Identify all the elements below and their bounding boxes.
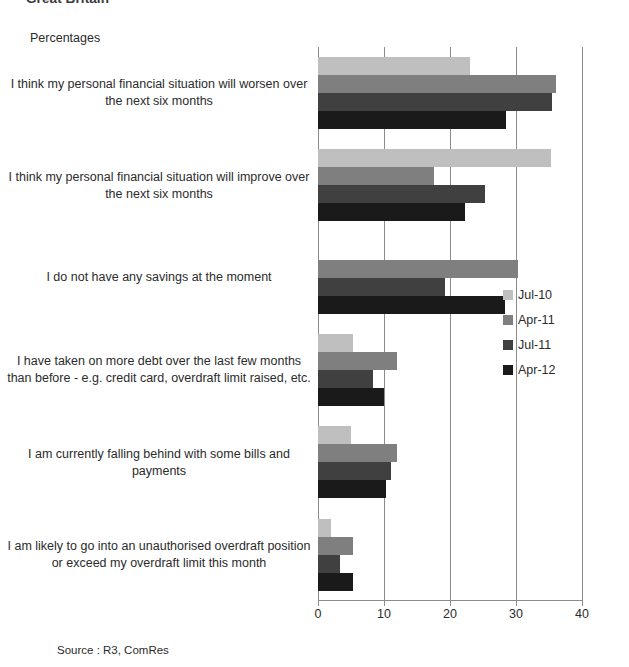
bar <box>318 370 373 388</box>
bar-group <box>318 509 582 601</box>
legend-swatch-icon <box>503 315 513 325</box>
legend-label: Apr-12 <box>518 363 556 377</box>
source-note: Source : R3, ComRes <box>57 644 169 656</box>
x-tick-label: 30 <box>509 607 523 621</box>
legend: Jul-10Apr-11Jul-11Apr-12 <box>503 282 565 382</box>
bar <box>318 519 331 537</box>
x-tick-label: 0 <box>315 607 322 621</box>
tick-mark <box>582 601 583 606</box>
tick-mark <box>384 601 385 606</box>
bar <box>318 57 470 75</box>
bar-group <box>318 139 582 231</box>
bar <box>318 334 353 352</box>
bar <box>318 573 353 591</box>
bar <box>318 260 518 278</box>
category-label: I do not have any savings at the moment <box>6 269 312 286</box>
x-tick-label: 20 <box>443 607 457 621</box>
category-label: I have taken on more debt over the last … <box>6 353 312 387</box>
bar-group <box>318 416 582 508</box>
bar <box>318 462 391 480</box>
legend-label: Apr-11 <box>518 313 555 327</box>
legend-swatch-icon <box>503 290 513 300</box>
bar <box>318 388 384 406</box>
bar <box>318 111 506 129</box>
gridline <box>582 47 583 601</box>
legend-item: Jul-10 <box>503 282 565 307</box>
bar <box>318 480 386 498</box>
x-tick-label: 10 <box>377 607 391 621</box>
bar <box>318 278 445 296</box>
tick-mark <box>516 601 517 606</box>
tick-mark <box>318 601 319 606</box>
bar <box>318 167 434 185</box>
category-label: I am likely to go into an unauthorised o… <box>6 538 312 572</box>
bar <box>318 203 465 221</box>
bar <box>318 537 353 555</box>
bar <box>318 75 556 93</box>
bar <box>318 444 397 462</box>
bar <box>318 296 505 314</box>
bar <box>318 185 485 203</box>
legend-swatch-icon <box>503 340 513 350</box>
bar <box>318 426 351 444</box>
bar <box>318 93 552 111</box>
legend-item: Apr-12 <box>503 357 565 382</box>
value-axis-title: Percentages <box>30 31 100 45</box>
category-label: I think my personal financial situation … <box>6 169 312 203</box>
bar <box>318 149 551 167</box>
bar-group <box>318 47 582 139</box>
category-label: I think my personal financial situation … <box>6 76 312 110</box>
legend-label: Jul-10 <box>518 288 552 302</box>
legend-item: Jul-11 <box>503 332 565 357</box>
legend-swatch-icon <box>503 365 513 375</box>
legend-item: Apr-11 <box>503 307 565 332</box>
tick-mark <box>450 601 451 606</box>
category-label: I am currently falling behind with some … <box>6 446 312 480</box>
bar <box>318 555 340 573</box>
chart-page: Great Britain Percentages 010203040 I th… <box>0 0 629 667</box>
x-tick-label: 40 <box>575 607 589 621</box>
page-title: Great Britain <box>26 0 109 6</box>
legend-label: Jul-11 <box>518 338 551 352</box>
bar <box>318 352 397 370</box>
